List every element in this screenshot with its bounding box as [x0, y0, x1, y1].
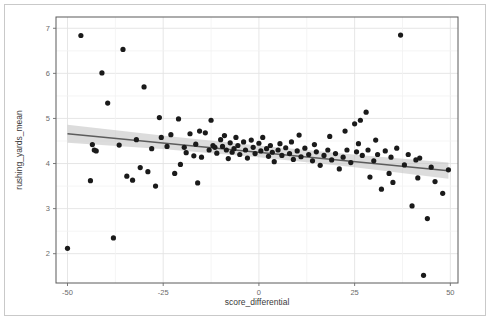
y-tick-label: 5: [46, 114, 50, 123]
y-tick-label: 6: [46, 69, 50, 78]
y-tick-label: 2: [46, 249, 50, 258]
x-tick-label: 25: [350, 288, 358, 297]
x-axis-title: score_differential: [225, 297, 290, 307]
scatter-plot: -50-2502550234567 score_differential rus…: [0, 0, 490, 320]
y-axis-title: rushing_yards_mean: [14, 110, 24, 190]
y-tick-label: 4: [46, 159, 50, 168]
y-tick-label: 3: [46, 204, 50, 213]
x-tick-label: -50: [62, 288, 73, 297]
x-tick-label: -25: [158, 288, 169, 297]
figure-container: -50-2502550234567 score_differential rus…: [0, 0, 490, 320]
x-tick-label: 0: [257, 288, 261, 297]
x-tick-label: 50: [446, 288, 454, 297]
y-tick-label: 7: [46, 24, 50, 33]
regression-line: [67, 134, 448, 171]
chart-svg: -50-2502550234567 score_differential rus…: [0, 0, 490, 320]
